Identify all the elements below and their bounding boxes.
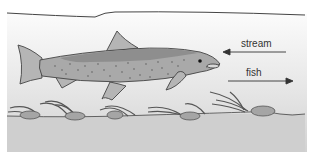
fish-eye [198,59,202,63]
riverbed [7,114,305,152]
fish-label: fish [246,67,262,78]
diagram-canvas [0,0,311,158]
stream-label: stream [241,38,272,49]
stream-diagram: stream fish [0,0,311,158]
